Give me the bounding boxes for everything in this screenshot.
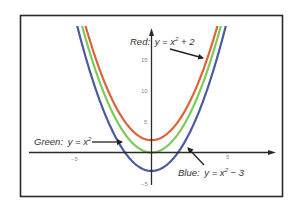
green-equation: y = x bbox=[67, 136, 90, 147]
green-prefix: Green: bbox=[34, 136, 63, 147]
green-exponent: 2 bbox=[87, 136, 92, 142]
red-prefix: Red: bbox=[130, 36, 150, 47]
red-annotation: Red: y = x2 + 2 bbox=[130, 36, 195, 47]
red-equation: y = x bbox=[154, 36, 177, 47]
y-tick-neg5: −5 bbox=[141, 181, 149, 187]
blue-suffix: − 3 bbox=[228, 167, 245, 178]
red-suffix: + 2 bbox=[178, 36, 195, 47]
blue-prefix: Blue: bbox=[178, 167, 200, 178]
blue-equation: y = x bbox=[203, 167, 226, 178]
green-annotation: Green: y = x2 bbox=[34, 136, 92, 147]
blue-annotation: Blue: y = x2 − 3 bbox=[178, 167, 245, 178]
parabola-chart: −5 5 15 10 5 −5 Red: y = x2 + 2 Green: y… bbox=[0, 0, 294, 211]
x-tick-neg5: −5 bbox=[71, 156, 79, 162]
y-tick-15: 15 bbox=[141, 57, 148, 63]
y-tick-10: 10 bbox=[141, 88, 148, 94]
